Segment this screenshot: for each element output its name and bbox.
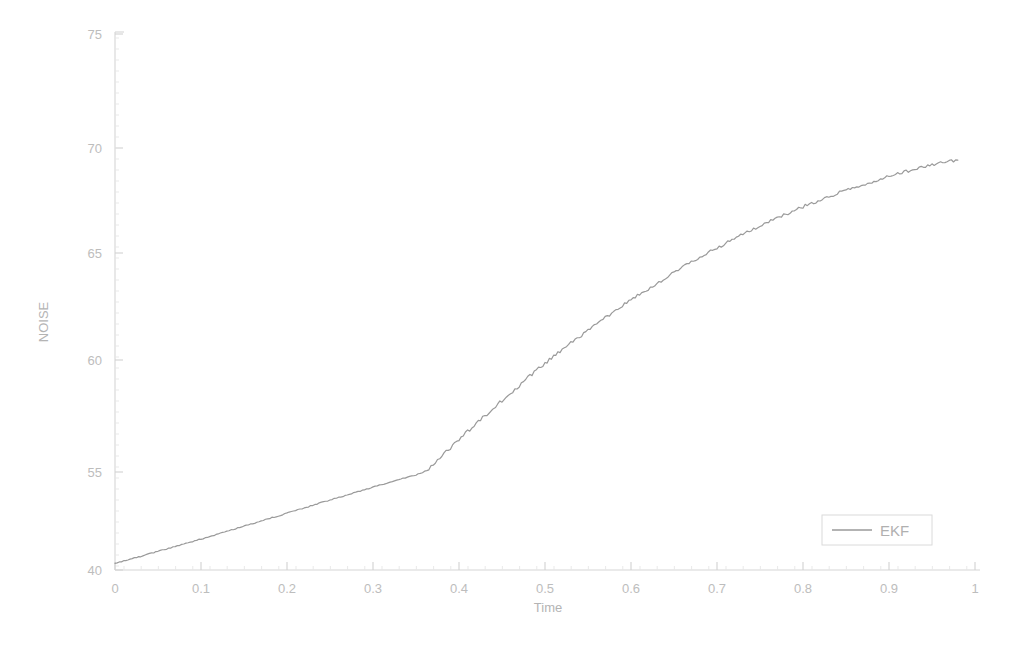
chart-plot[interactable]: 405560657075 00.10.20.30.40.50.60.70.80.… <box>0 0 1014 652</box>
y-tick-label-55: 55 <box>88 465 102 480</box>
legend[interactable]: EKF <box>822 515 932 545</box>
y-axis-tick-labels: 405560657075 <box>88 27 102 578</box>
x-tick-label-0.9: 0.9 <box>880 581 898 596</box>
y-axis-title: NOISE <box>36 301 51 342</box>
x-tick-label-0.8: 0.8 <box>794 581 812 596</box>
y-tick-label-75: 75 <box>88 27 102 42</box>
x-tick-label-0: 0 <box>111 581 118 596</box>
y-tick-label-60: 60 <box>88 353 102 368</box>
x-tick-label-0.2: 0.2 <box>278 581 296 596</box>
axis-lines <box>115 32 980 570</box>
series-line-ekf[interactable] <box>115 160 958 564</box>
x-tick-label-0.5: 0.5 <box>536 581 554 596</box>
x-tick-label-0.4: 0.4 <box>450 581 468 596</box>
y-tick-label-40: 40 <box>88 563 102 578</box>
legend-label-ekf: EKF <box>880 522 909 539</box>
y-tick-label-65: 65 <box>88 246 102 261</box>
x-axis-title: Time <box>534 600 562 615</box>
y-axis-minor-ticks <box>115 38 119 566</box>
figure-canvas: 405560657075 00.10.20.30.40.50.60.70.80.… <box>0 0 1014 652</box>
x-tick-label-0.3: 0.3 <box>364 581 382 596</box>
x-axis-tick-labels: 00.10.20.30.40.50.60.70.80.91 <box>111 581 978 596</box>
x-tick-label-0.7: 0.7 <box>708 581 726 596</box>
x-tick-label-0.1: 0.1 <box>192 581 210 596</box>
x-tick-label-0.6: 0.6 <box>622 581 640 596</box>
x-tick-label-1: 1 <box>971 581 978 596</box>
y-tick-label-70: 70 <box>88 141 102 156</box>
